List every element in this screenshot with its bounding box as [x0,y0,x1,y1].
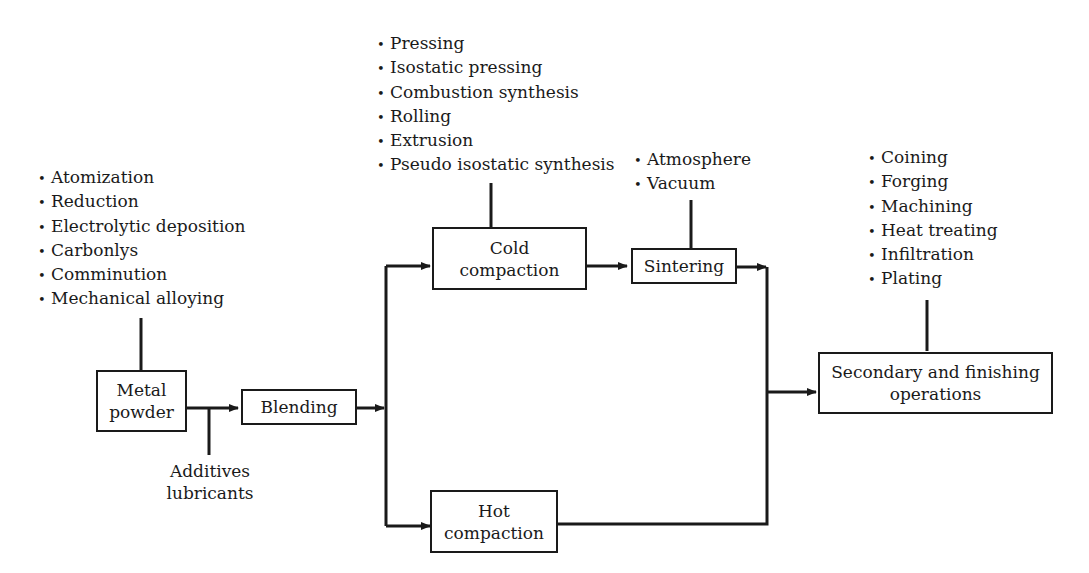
node-label: Cold [490,237,530,259]
node-label: powder [109,401,174,423]
list-item: Infiltration [868,243,998,267]
list-item: Rolling [377,105,615,129]
list-item: Heat treating [868,219,998,243]
list-item: Pressing [377,32,615,56]
list-item: Carbonlys [38,239,246,263]
node-label: Sintering [644,255,724,277]
list-item: Electrolytic deposition [38,215,246,239]
list-item: Isostatic pressing [377,56,615,80]
list-item: Reduction [38,190,246,214]
secondary-finishing-node: Secondary and finishing operations [818,352,1053,414]
hot-to-merge-line [558,392,767,524]
node-label: compaction [460,259,560,281]
list-item: Plating [868,267,998,291]
list-item: Combustion synthesis [377,81,615,105]
list-item: Machining [868,195,998,219]
sintering-node: Sintering [631,248,737,284]
hot-compaction-node: Hot compaction [430,490,558,553]
list-item: Atmosphere [634,148,751,172]
additives-line2: lubricants [160,482,260,504]
list-item: Forging [868,170,998,194]
additives-label: Additives lubricants [160,460,260,504]
list-item: Pseudo isostatic synthesis [377,153,615,177]
compaction-methods-list: Pressing Isostatic pressing Combustion s… [377,32,615,178]
finishing-methods-list: Coining Forging Machining Heat treating … [868,146,998,292]
list-item: Vacuum [634,172,751,196]
cold-compaction-node: Cold compaction [432,227,587,290]
node-label: Secondary and finishing [831,361,1040,383]
metal-powder-node: Metal powder [96,370,187,432]
list-item: Atomization [38,166,246,190]
list-item: Coining [868,146,998,170]
node-label: operations [890,383,982,405]
node-label: Metal [117,379,167,401]
list-item: Comminution [38,263,246,287]
node-label: Blending [260,396,337,418]
sintering-conditions-list: Atmosphere Vacuum [634,148,751,197]
additives-line1: Additives [160,460,260,482]
powder-methods-list: Atomization Reduction Electrolytic depos… [38,166,246,312]
list-item: Extrusion [377,129,615,153]
blending-node: Blending [241,389,357,425]
node-label: Hot [478,500,510,522]
node-label: compaction [444,522,544,544]
list-item: Mechanical alloying [38,287,246,311]
